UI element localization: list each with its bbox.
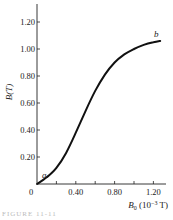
y-tick-label-100: 1.00	[20, 44, 35, 54]
x-axis-label-unit-end: T)	[157, 200, 168, 210]
y-tick-label-040: 0.40	[20, 125, 35, 135]
x-tick-label-040: 0.40	[68, 187, 83, 197]
magnetization-curve	[37, 41, 160, 184]
y-axis-label: B(T)	[4, 84, 14, 101]
y-tick-label-120: 1.20	[20, 17, 35, 27]
x-tick-label-080: 0.80	[107, 187, 122, 197]
y-tick-label-060: 0.60	[20, 98, 35, 108]
y-tick-label-020: 0.20	[20, 152, 35, 162]
point-label-b: b	[154, 29, 159, 39]
magnetization-curve-chart: 0.20 0.40 0.60 0.80 1.00 1.20 0 0.40 0.8…	[0, 0, 173, 220]
x-tick-label-origin: 0	[29, 187, 33, 197]
x-tick-label-120: 1.20	[146, 187, 161, 197]
point-label-a: a	[42, 170, 47, 180]
y-tick-label-080: 0.80	[20, 71, 35, 81]
figure-caption: FIGURE 11-11	[2, 210, 170, 218]
x-axis-label-unit: (10	[137, 200, 152, 210]
